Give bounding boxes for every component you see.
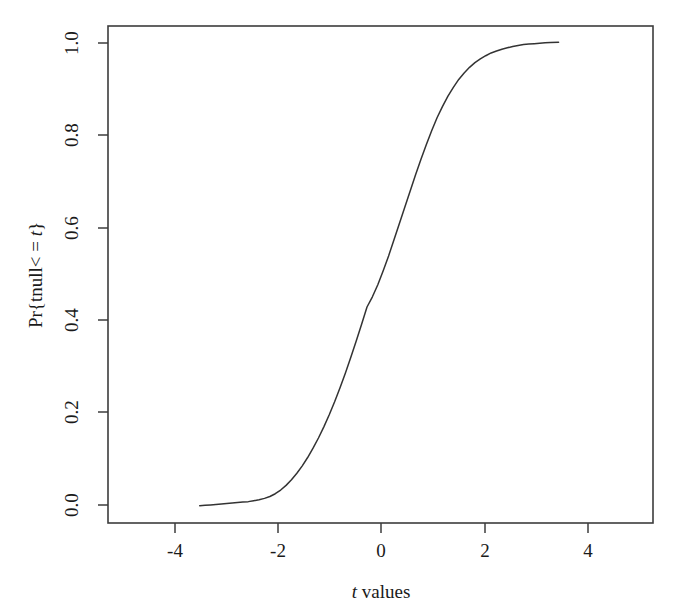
y-axis-title: Pr{tnull< = t} bbox=[25, 222, 46, 328]
y-tick-label: 0.0 bbox=[61, 493, 82, 517]
y-tick-label: 0.2 bbox=[61, 400, 82, 424]
plot-canvas: -4 -2 0 2 4 0.0 0.2 0.4 0.6 0.8 1.0 Pr{t… bbox=[0, 0, 683, 615]
x-tick-label: 4 bbox=[583, 540, 593, 561]
y-axis-title-post: } bbox=[25, 222, 46, 231]
y-tick-label: 1.0 bbox=[61, 31, 82, 55]
x-tick-label: 0 bbox=[376, 540, 386, 561]
ecdf-figure: -4 -2 0 2 4 0.0 0.2 0.4 0.6 0.8 1.0 Pr{t… bbox=[0, 0, 683, 615]
y-axis-title-pre: Pr{tnull< = bbox=[25, 236, 46, 328]
x-tick-label: 2 bbox=[480, 540, 490, 561]
x-tick-label: -2 bbox=[270, 540, 286, 561]
x-axis-title-rest: values bbox=[357, 581, 410, 602]
y-tick-label: 0.4 bbox=[61, 308, 82, 332]
y-tick-label: 0.6 bbox=[61, 216, 82, 240]
x-axis-title: t values bbox=[352, 581, 411, 602]
x-tick-label: -4 bbox=[167, 540, 183, 561]
y-tick-label: 0.8 bbox=[61, 123, 82, 147]
